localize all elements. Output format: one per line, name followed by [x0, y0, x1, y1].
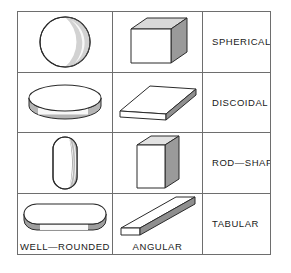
cell-well-rounded-rod-shaped: [18, 133, 113, 194]
thin-elongated-slab-icon: [116, 194, 200, 240]
cell-well-rounded-tabular: WELL—ROUNDED: [18, 194, 113, 255]
cell-angular-tabular: ANGULAR: [113, 194, 203, 255]
cell-well-rounded-discoidal: [18, 73, 113, 134]
cell-angular-discoidal: [113, 73, 203, 134]
capsule-icon: [42, 133, 88, 193]
flat-slab-icon: [116, 78, 200, 126]
cell-angular-rod-shaped: [113, 133, 203, 194]
cell-category-rod-shaped: ROD—SHAPED: [203, 133, 270, 194]
shape-classification-figure: SPHERICAL DISCOIDAL: [17, 11, 271, 255]
cell-angular-spherical: [113, 12, 203, 73]
category-label-tabular: TABULAR: [212, 218, 259, 229]
sphere-icon: [31, 13, 99, 71]
cube-icon: [121, 13, 195, 71]
column-footer-angular: ANGULAR: [113, 241, 202, 252]
cell-category-discoidal: DISCOIDAL: [203, 73, 270, 134]
cell-category-spherical: SPHERICAL: [203, 12, 270, 73]
category-label-rod-shaped: ROD—SHAPED: [212, 157, 270, 168]
cell-well-rounded-spherical: [18, 12, 113, 73]
disc-cylinder-icon: [22, 78, 108, 126]
category-label-discoidal: DISCOIDAL: [212, 97, 268, 108]
category-label-spherical: SPHERICAL: [212, 36, 270, 47]
column-footer-well-rounded: WELL—ROUNDED: [18, 241, 112, 252]
cell-category-tabular: TABULAR: [203, 194, 270, 255]
rounded-flat-slab-icon: [20, 200, 110, 234]
tall-box-icon: [128, 133, 188, 194]
shape-grid: SPHERICAL DISCOIDAL: [18, 12, 270, 254]
